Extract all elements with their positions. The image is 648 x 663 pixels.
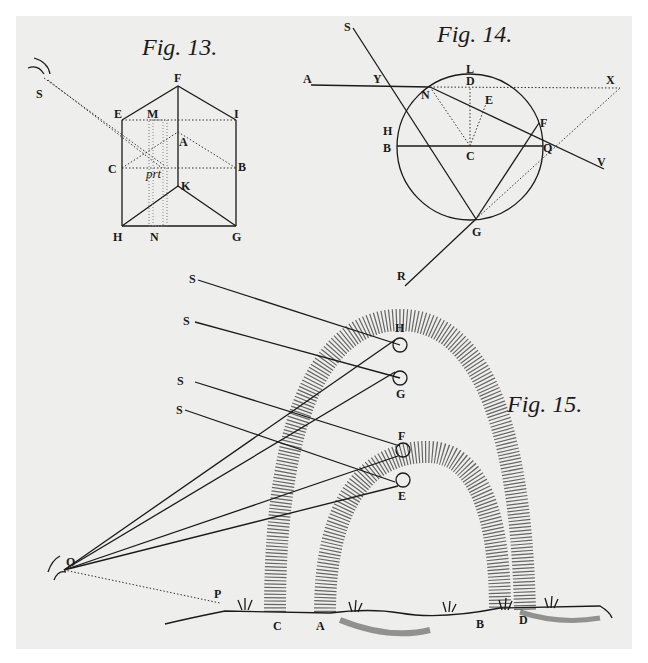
fig14-label-x: X <box>606 73 615 87</box>
fig14-title: Fig. 14. <box>436 21 512 47</box>
fig15-label-a: A <box>316 619 325 633</box>
fig15-label-g: G <box>396 387 405 401</box>
fig14-label-q: Q <box>543 141 552 155</box>
fig14-label-g: G <box>472 225 481 239</box>
fig14-label-h: H <box>383 124 393 138</box>
fig13-label-e: E <box>114 107 122 121</box>
grass-tuft <box>238 598 252 610</box>
fig15-label-p: P <box>214 587 221 601</box>
fig14-label-n: N <box>421 88 430 102</box>
fig13-label-m: M <box>147 107 158 121</box>
fig13-label-a: A <box>179 135 188 149</box>
fig13-label-k: K <box>181 179 191 193</box>
fig14-label-s: S <box>344 20 351 34</box>
fig14-label-d: D <box>466 74 475 88</box>
fig13-prism: Fig. 13. S F E M I A C prt B K H N G <box>28 34 246 244</box>
outer-bow <box>275 320 525 612</box>
fig15-rainbow: Fig. 15. S S <box>48 272 612 633</box>
fig13-label-n: N <box>150 230 159 244</box>
fig13-label-c: C <box>108 162 117 176</box>
fig14-raindrop: Fig. 14. S A Y L D X N E H F B C Q V G R <box>303 20 620 286</box>
fig14-label-a: A <box>303 72 312 86</box>
fig15-label-h: H <box>395 321 405 335</box>
fig14-label-f: F <box>540 116 547 130</box>
fig15-label-s2: S <box>183 314 190 328</box>
fig13-label-f: F <box>174 71 181 85</box>
fig15-label-o: O <box>66 555 75 569</box>
fig14-label-r: R <box>397 269 406 283</box>
fig15-label-d: D <box>519 613 528 627</box>
fig15-label-f: F <box>398 429 405 443</box>
fig15-label-c: C <box>273 619 282 633</box>
fig13-label-s: S <box>36 87 43 101</box>
fig15-label-s4: S <box>176 403 183 417</box>
inner-bow <box>325 452 500 612</box>
drop-e <box>396 473 410 487</box>
observer-eye-icon <box>48 556 60 572</box>
ground <box>165 606 612 624</box>
fig13-label-prt: prt <box>145 166 162 181</box>
fig14-label-c: C <box>466 149 475 163</box>
fig14-label-v: V <box>597 155 606 169</box>
fig13-label-i: I <box>234 107 239 121</box>
fig14-label-e: E <box>485 93 493 107</box>
fig14-label-y: Y <box>373 72 382 86</box>
fig13-label-b: B <box>238 160 246 174</box>
fig13-title: Fig. 13. <box>141 34 217 60</box>
fig13-label-g: G <box>232 230 241 244</box>
fig14-label-b: B <box>383 141 391 155</box>
fig15-label-e: E <box>398 489 406 503</box>
optics-diagram: Fig. 13. S F E M I A C prt B K H N G <box>0 0 648 663</box>
fig15-label-s1: S <box>189 272 196 286</box>
fig15-label-b: B <box>476 617 484 631</box>
eye-lid-icon <box>28 67 44 74</box>
fig13-label-h: H <box>113 230 123 244</box>
fig15-label-s3: S <box>177 374 184 388</box>
fig15-title: Fig. 15. <box>506 391 582 417</box>
